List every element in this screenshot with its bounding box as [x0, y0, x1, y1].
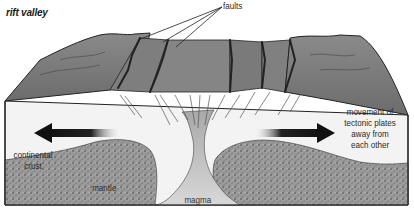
movement-label-line-4: each other: [336, 139, 404, 150]
diagram-title: rift valley: [6, 7, 48, 18]
crust-label-line-1: continental: [12, 149, 55, 160]
movement-label-line-1: movement of: [336, 106, 404, 117]
surface-right: [285, 35, 408, 115]
movement-label: movement of tectonic plates away from ea…: [336, 106, 404, 150]
movement-label-line-2: tectonic plates: [336, 117, 404, 128]
fault-block-3: [230, 40, 262, 92]
movement-label-line-3: away from: [336, 128, 404, 139]
continental-crust-label: continental crust: [12, 149, 55, 171]
mantle-label: mantle: [92, 182, 116, 193]
magma-label: magma: [184, 194, 211, 205]
crust-label-line-2: crust: [12, 160, 55, 171]
faults-label: faults: [223, 0, 242, 11]
rift-valley-diagram: rift valley faults movement of tectonic …: [0, 0, 414, 212]
